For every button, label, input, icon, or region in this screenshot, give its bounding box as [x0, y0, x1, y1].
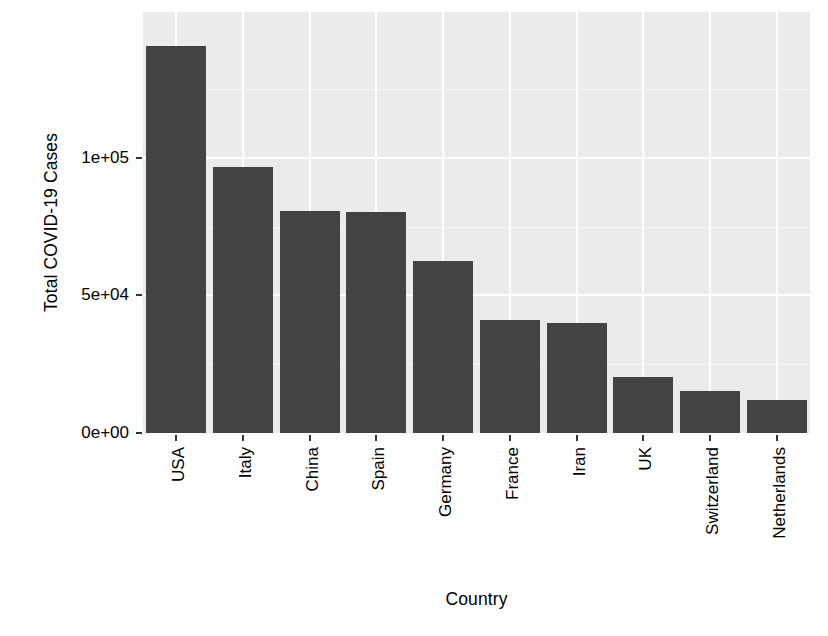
bar [680, 391, 740, 433]
x-tick-label: USA [169, 447, 188, 482]
x-tick-mark [442, 435, 444, 441]
x-tick-label: UK [636, 447, 655, 471]
x-tick-label: China [303, 447, 322, 491]
x-tick-mark [709, 435, 711, 441]
x-tick-label: France [503, 447, 522, 500]
x-axis-title: Country [143, 589, 810, 610]
y-tick-label: 0e+00 [81, 423, 129, 443]
bar [280, 211, 340, 433]
y-tick-mark [136, 157, 142, 159]
x-tick-mark [375, 435, 377, 441]
x-tick-mark [509, 435, 511, 441]
bar [613, 377, 673, 433]
x-tick-label: Switzerland [703, 447, 722, 535]
x-tick-label: Iran [570, 447, 589, 476]
gridline-major-vertical [642, 12, 644, 433]
x-tick-mark [776, 435, 778, 441]
x-tick-mark [309, 435, 311, 441]
bar [413, 261, 473, 433]
x-tick-mark [576, 435, 578, 441]
x-tick-mark [642, 435, 644, 441]
bar [213, 167, 273, 433]
y-tick-label: 5e+04 [81, 285, 129, 305]
bar [480, 320, 540, 433]
x-tick-label: Italy [236, 447, 255, 478]
x-tick-mark [242, 435, 244, 441]
bar [346, 212, 406, 433]
x-tick-mark [175, 435, 177, 441]
y-tick-label: 1e+05 [81, 148, 129, 168]
bar [747, 400, 807, 433]
y-axis: 0e+005e+041e+05 [0, 0, 143, 636]
gridline-major-vertical [709, 12, 711, 433]
gridline-major-vertical [776, 12, 778, 433]
x-tick-label: Germany [436, 447, 455, 517]
bar [146, 46, 206, 433]
x-tick-label: Netherlands [770, 447, 789, 539]
x-tick-label: Spain [369, 447, 388, 490]
y-tick-mark [136, 294, 142, 296]
bar-chart: Total COVID-19 Cases 0e+005e+041e+05 USA… [0, 0, 828, 636]
bar [547, 323, 607, 433]
plot-panel [143, 12, 810, 433]
y-tick-mark [136, 432, 142, 434]
